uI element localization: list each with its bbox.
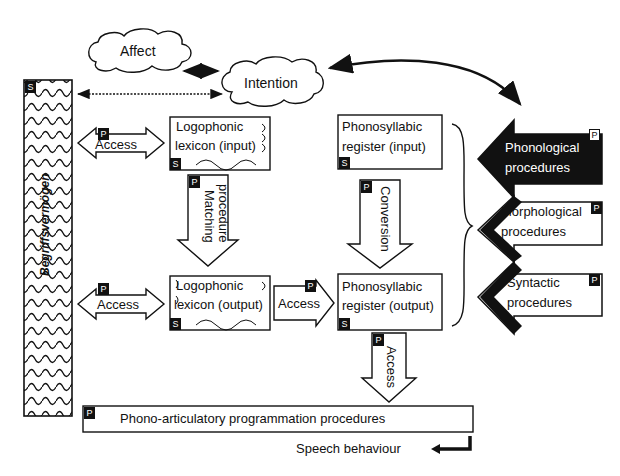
matching-badge: P — [189, 176, 200, 188]
register-output-badge: S — [339, 318, 350, 330]
morphological-badge: P — [591, 202, 602, 214]
access-lex-reg-label: Access — [278, 296, 320, 312]
lexicon-output-badge: S — [170, 318, 181, 330]
morphological-line2: procedures — [501, 224, 566, 240]
matching-line2: procedure — [216, 184, 230, 243]
programming-label: Phono-articulatory programmation procedu… — [120, 411, 385, 427]
register-input-line1: Phonosyllabic — [342, 119, 422, 135]
lexicon-input-line1: Logophonic — [176, 119, 243, 135]
begriffsvermoegen-badge: S — [25, 81, 36, 93]
access-down-label: Access — [384, 346, 398, 388]
lexicon-output-line1: Logophonic — [176, 278, 243, 294]
begriffsvermoegen-label: Begriffsvermögen — [38, 174, 52, 276]
syntactic-line2: procedures — [507, 295, 572, 311]
access-mid-badge: P — [98, 283, 109, 295]
access-top-label: Access — [95, 137, 137, 153]
syntactic-badge: P — [589, 274, 600, 286]
phonological-line1: Phonological — [505, 140, 579, 156]
register-input-badge: S — [339, 157, 350, 169]
morphological-line1: Morphological — [501, 204, 582, 220]
programming-badge: P — [84, 407, 95, 419]
phonological-line2: procedures — [505, 160, 570, 176]
access-lex-reg-badge: P — [305, 280, 316, 292]
register-output-line1: Phonosyllabic — [342, 279, 422, 295]
speech-behaviour-label: Speech behaviour — [296, 441, 401, 457]
lexicon-input-badge: S — [170, 158, 181, 170]
register-input-line2: register (input) — [342, 139, 426, 155]
register-output-line2: register (output) — [342, 298, 434, 314]
intention-label: Intention — [244, 75, 298, 91]
access-mid-label: Access — [97, 297, 139, 313]
affect-label: Affect — [120, 43, 156, 59]
lexicon-output-line2: lexicon (output) — [174, 297, 263, 313]
conversion-label: Conversion — [378, 186, 392, 252]
access-down-badge: P — [373, 334, 384, 346]
syntactic-line1: Syntactic — [507, 275, 560, 291]
matching-line1: Matching — [202, 190, 216, 243]
lexicon-input-line2: lexicon (input) — [175, 138, 256, 154]
return-arrow-icon — [430, 436, 472, 456]
phonological-badge: P — [589, 129, 600, 141]
conversion-badge: P — [361, 181, 372, 193]
